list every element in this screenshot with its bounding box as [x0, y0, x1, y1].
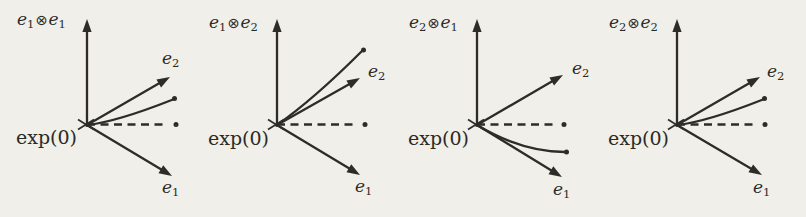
e2-vector-label: e2 — [162, 49, 179, 70]
dashed-endpoint-dot — [363, 122, 368, 127]
e1-vector-label: e1 — [553, 180, 570, 201]
subscript: 1 — [451, 20, 458, 34]
e1-vector-label: e1 — [753, 178, 770, 199]
origin-label: exp(0) — [608, 128, 669, 149]
origin-label: exp(0) — [16, 127, 77, 148]
panel-art-e2e2 — [668, 19, 768, 175]
e2-arrow-shaft — [477, 80, 554, 125]
panel-art-e2e1 — [468, 19, 569, 177]
basis-symbol: e — [441, 12, 451, 32]
origin-dot — [85, 123, 89, 127]
tensor-product-icon: ⊗ — [35, 12, 47, 28]
tensor-product-icon: ⊗ — [627, 15, 639, 31]
basis-symbol: e — [209, 12, 219, 32]
tensor-product-icon: ⊗ — [427, 15, 439, 31]
panel-art-e1e2 — [268, 19, 368, 175]
e2-arrow-head — [746, 77, 760, 87]
panel-title-e1e1: e1⊗e1 — [17, 10, 66, 31]
basis-symbol: e — [17, 9, 27, 29]
origin-label: exp(0) — [408, 128, 469, 149]
basis-symbol: e — [241, 12, 251, 32]
subscript: 2 — [419, 20, 426, 34]
vertical-axis-arrow-head — [82, 19, 91, 32]
curve-endpoint-dot — [564, 150, 569, 155]
panel-title-e1e2: e1⊗e2 — [209, 13, 258, 34]
e1-arrow-head — [549, 166, 562, 177]
e1-arrow-head — [346, 164, 360, 175]
basis-symbol: e — [409, 12, 419, 32]
vertical-axis-arrow-head — [272, 19, 281, 32]
e1-arrow-head — [748, 164, 762, 175]
vertical-axis-arrow-head — [672, 19, 681, 32]
e1-arrow-head — [158, 165, 172, 176]
diagram-canvas — [0, 0, 806, 217]
exp-curve — [677, 100, 763, 126]
e2-arrow-shaft — [277, 83, 351, 125]
tensor-product-icon: ⊗ — [227, 15, 239, 31]
subscript: 2 — [619, 20, 626, 34]
e1-vector-label: e1 — [162, 178, 179, 199]
basis-symbol: e — [609, 12, 619, 32]
panel-title-e2e1: e2⊗e1 — [409, 13, 458, 34]
e1-vector-label: e1 — [355, 177, 372, 198]
panel-art-e1e1 — [78, 19, 179, 176]
subscript: 2 — [251, 20, 258, 34]
curve-endpoint-dot — [762, 96, 767, 101]
exp-curve — [87, 100, 173, 126]
exp-curve — [477, 125, 565, 152]
e2-arrow-shaft — [677, 82, 751, 125]
e2-vector-label: e2 — [368, 62, 385, 83]
subscript: 1 — [27, 17, 34, 31]
e2-arrow-head — [346, 78, 360, 88]
subscript: 1 — [59, 17, 66, 31]
dashed-endpoint-dot — [174, 122, 179, 127]
basis-symbol: e — [49, 9, 59, 29]
origin-dot — [675, 123, 679, 127]
origin-dot — [475, 123, 479, 127]
origin-label: exp(0) — [208, 128, 269, 149]
curve-endpoint-dot — [172, 96, 177, 101]
e1-arrow-shaft — [677, 125, 753, 170]
curve-endpoint-dot — [361, 48, 366, 53]
e2-arrow-head — [549, 75, 563, 86]
e1-arrow-shaft — [87, 125, 163, 171]
dashed-endpoint-dot — [562, 122, 567, 127]
exp-curve — [277, 51, 362, 125]
e2-arrow-shaft — [87, 82, 161, 125]
e2-vector-label: e2 — [572, 59, 589, 80]
subscript: 1 — [219, 20, 226, 34]
basis-symbol: e — [641, 12, 651, 32]
origin-dot — [275, 123, 279, 127]
figure-root: e1⊗e1 exp(0) e2 e1 e1⊗e2 exp(0) e2 e1 e2… — [0, 0, 806, 217]
subscript: 2 — [651, 20, 658, 34]
e1-arrow-shaft — [277, 125, 351, 170]
e2-vector-label: e2 — [767, 62, 784, 83]
panel-title-e2e2: e2⊗e2 — [609, 13, 658, 34]
e2-arrow-head — [156, 77, 170, 87]
vertical-axis-arrow-head — [472, 19, 481, 32]
dashed-endpoint-dot — [763, 122, 768, 127]
